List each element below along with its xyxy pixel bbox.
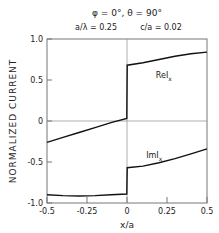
x-tick-label: 0.5 [201,207,214,216]
series-label-rei-x: ReIx [156,71,172,82]
series-label-imi-x: ImIx [146,151,163,162]
y-tick-label: -0.5 [27,158,43,167]
chart-title-line1: φ = 0°, θ = 90° [92,8,162,18]
y-tick-label: 0.5 [30,76,43,85]
y-tick-label: 1.0 [30,35,43,44]
y-axis-label: NORMALIZED CURRENT [8,59,18,184]
x-tick-label: 0 [124,207,129,216]
y-tick-label: 0 [38,117,43,126]
series-label-subscript: x [168,75,172,82]
chart: φ = 0°, θ = 90° a/λ = 0.25 c/a = 0.02 1.… [0,0,219,233]
series-label-subscript: x [159,155,163,162]
x-axis-label: x/a [120,220,134,230]
x-tick-label: -0.25 [77,207,98,216]
chart-title-param-c-a: c/a = 0.02 [140,23,182,32]
x-tick-label: 0.25 [158,207,176,216]
x-tick-label: -0.5 [39,207,55,216]
chart-title-param-a-lambda: a/λ = 0.25 [75,23,117,32]
